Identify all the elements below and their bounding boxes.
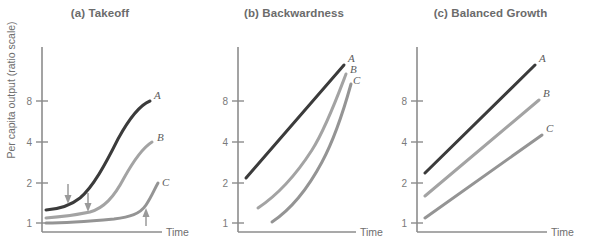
curve-a (46, 101, 150, 210)
curve-label-b: B (157, 131, 164, 143)
curve-label-c: C (353, 74, 361, 86)
y-tick-label-2: 2 (401, 178, 407, 189)
y-tick-label-4: 4 (401, 137, 407, 148)
curve-label-c: C (162, 176, 170, 188)
x-axis-label: Time (360, 226, 383, 238)
plot-backwardness: 8 4 2 1 A B C Time (196, 0, 392, 245)
panel-balanced-growth: (c) Balanced Growth 8 4 2 1 A B C Time (392, 0, 589, 245)
y-tick-label-8: 8 (222, 96, 228, 107)
curve-label-c: C (546, 122, 554, 134)
y-tick-label-1: 1 (26, 218, 32, 229)
y-tick-label-8: 8 (26, 96, 32, 107)
panel-backwardness: (b) Backwardness 8 4 2 1 A B C Time (196, 0, 392, 245)
x-axis-label: Time (551, 226, 574, 238)
curve-label-a: A (538, 52, 546, 64)
panel-takeoff: (a) Takeoff Per capita output (ratio sca… (0, 0, 200, 245)
y-tick-label-1: 1 (401, 218, 407, 229)
curve-label-b: B (543, 87, 550, 99)
y-tick-label-4: 4 (26, 137, 32, 148)
plot-takeoff: 8 4 2 1 A B C Ti (0, 0, 200, 245)
y-tick-label-2: 2 (26, 178, 32, 189)
figure-three-growth-patterns: (a) Takeoff Per capita output (ratio sca… (0, 0, 589, 245)
takeoff-arrow-a (65, 184, 72, 204)
takeoff-arrow-b (85, 193, 92, 212)
y-tick-label-8: 8 (401, 96, 407, 107)
x-axis-label: Time (166, 226, 189, 238)
plot-balanced-growth: 8 4 2 1 A B C Time (392, 0, 589, 245)
y-tick-label-1: 1 (222, 218, 228, 229)
y-tick-label-2: 2 (222, 178, 228, 189)
curve-a (246, 65, 344, 178)
takeoff-arrow-c (143, 208, 150, 226)
curve-label-a: A (153, 89, 161, 101)
y-tick-label-4: 4 (222, 137, 228, 148)
